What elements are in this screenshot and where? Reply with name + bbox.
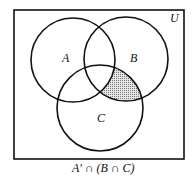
set-a-label: A	[61, 51, 70, 65]
universe-label: U	[170, 11, 180, 25]
set-b-label: B	[130, 51, 138, 65]
venn-diagram: U A B C A′ ∩ (B ∩ C)	[0, 0, 194, 179]
set-a-circle	[31, 18, 115, 102]
caption: A′ ∩ (B ∩ C)	[71, 161, 135, 175]
set-c-label: C	[97, 111, 106, 125]
